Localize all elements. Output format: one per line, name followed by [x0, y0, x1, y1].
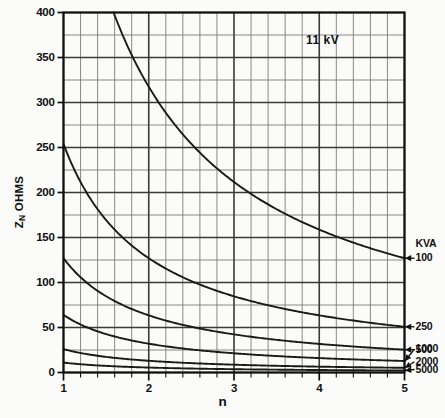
- curve-label-1000: 1000: [416, 342, 439, 354]
- y-axis-title-subscript: N: [17, 215, 27, 221]
- plot-canvas: [0, 0, 445, 418]
- y-tick-label-250: 250: [8, 141, 55, 153]
- curve-label-250: 250: [416, 320, 433, 332]
- y-axis-title-units: OHMS: [13, 176, 25, 211]
- y-axis-title-symbol: Z: [13, 221, 25, 228]
- x-tick-label-3: 3: [219, 382, 249, 394]
- y-tick-label-400: 400: [8, 6, 55, 18]
- legend-title-kva: KVA: [416, 237, 437, 249]
- voltage-annotation: 11 kV: [306, 33, 339, 47]
- x-tick-label-1: 1: [49, 382, 79, 394]
- y-tick-label-350: 350: [8, 51, 55, 63]
- arrowhead-100: [405, 255, 411, 261]
- curve-100: [114, 13, 405, 259]
- x-tick-label-4: 4: [304, 382, 334, 394]
- y-tick-label-300: 300: [8, 96, 55, 108]
- chart-figure: 050100150200250300350400 12345 ZN OHMS n…: [0, 0, 445, 418]
- x-tick-label-5: 5: [390, 382, 420, 394]
- curve-label-5000: 5000: [416, 363, 439, 375]
- y-tick-label-100: 100: [8, 276, 55, 288]
- curve-label-100: 100: [416, 251, 433, 263]
- arrowhead-500: [405, 347, 411, 353]
- x-tick-label-2: 2: [134, 382, 164, 394]
- y-tick-label-50: 50: [8, 321, 55, 333]
- y-tick-label-0: 0: [8, 366, 55, 378]
- arrowhead-250: [405, 324, 411, 330]
- axis-tick-marks: [58, 13, 405, 381]
- curve-label-pointers: [405, 255, 415, 373]
- y-axis-title: ZN OHMS: [13, 159, 25, 245]
- x-axis-title: n: [0, 394, 445, 409]
